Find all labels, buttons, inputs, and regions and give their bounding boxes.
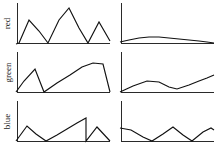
plot-green-left [15, 49, 111, 95]
chart-row-red: red [0, 0, 217, 46]
panel-green-left[interactable] [15, 49, 111, 95]
series-red-left [16, 8, 110, 44]
row-label-green-text: green [4, 62, 13, 82]
row-label-red: red [0, 0, 16, 46]
plot-red-right [119, 0, 215, 46]
series-green-right [120, 75, 214, 92]
chart-grid: red green [0, 0, 217, 144]
axis-blue-left [18, 101, 111, 142]
panel-blue-right[interactable] [119, 98, 215, 144]
plot-red-left [15, 0, 111, 46]
plot-blue-left [15, 98, 111, 144]
plot-blue-right [119, 98, 215, 144]
row-label-blue: blue [0, 98, 16, 144]
series-green-left [16, 63, 110, 92]
panel-red-left[interactable] [15, 0, 111, 46]
panel-green-right[interactable] [119, 49, 215, 95]
series-blue-left [16, 118, 110, 141]
panel-blue-left[interactable] [15, 98, 111, 144]
panel-red-right[interactable] [119, 0, 215, 46]
row-label-blue-text: blue [4, 113, 13, 129]
series-blue-right [120, 127, 214, 141]
chart-row-blue: blue [0, 98, 217, 144]
row-label-red-text: red [4, 17, 13, 29]
chart-row-green: green [0, 49, 217, 95]
plot-green-right [119, 49, 215, 95]
row-label-green: green [0, 49, 16, 95]
series-red-right [120, 37, 214, 43]
axis-blue-right [122, 101, 215, 142]
